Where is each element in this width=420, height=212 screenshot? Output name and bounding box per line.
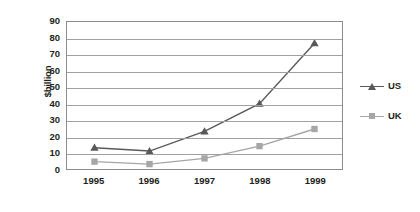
chart-legend: USUK: [360, 76, 418, 136]
legend-item-us[interactable]: US: [360, 76, 418, 96]
data-point-marker: [91, 158, 97, 164]
y-axis-tick-labels: 9080706050403020100: [30, 21, 60, 170]
data-point-marker: [310, 39, 318, 46]
y-axis-tick-label: 20: [30, 132, 60, 142]
line-chart: $billion 9080706050403020100 19951996199…: [0, 0, 420, 212]
series-line: [95, 43, 315, 151]
series-svg: [67, 22, 342, 169]
data-point-marker: [201, 155, 207, 161]
square-marker-icon: [360, 110, 384, 122]
gridline: [67, 72, 342, 73]
y-axis-tick-label: 40: [30, 99, 60, 109]
series-us: [90, 39, 318, 154]
x-axis-tick-label: 1999: [288, 176, 342, 186]
plot-area: [66, 21, 343, 170]
data-point-marker: [256, 143, 262, 149]
x-axis-tick-label: 1995: [67, 176, 121, 186]
gridline: [67, 138, 342, 139]
y-axis-tick-label: 70: [30, 49, 60, 59]
legend-label: UK: [388, 111, 402, 121]
y-axis-tick-label: 90: [30, 16, 60, 26]
x-axis-tick-label: 1998: [233, 176, 287, 186]
legend-label: US: [388, 81, 401, 91]
data-point-marker: [146, 161, 152, 167]
x-axis-tick-label: 1996: [122, 176, 176, 186]
gridline: [67, 39, 342, 40]
gridline: [67, 105, 342, 106]
gridline: [67, 55, 342, 56]
x-axis-tick-labels: 19951996199719981999: [66, 176, 343, 192]
data-point-marker: [311, 126, 317, 132]
y-axis-tick-label: 80: [30, 33, 60, 43]
gridline: [67, 88, 342, 89]
y-axis-tick-label: 60: [30, 66, 60, 76]
data-point-marker: [200, 127, 208, 134]
legend-square-icon: [369, 113, 375, 119]
triangle-marker-icon: [360, 80, 384, 92]
gridline: [67, 121, 342, 122]
y-axis-tick-label: 0: [30, 165, 60, 175]
legend-item-uk[interactable]: UK: [360, 106, 418, 126]
legend-triangle-icon: [368, 83, 376, 90]
y-axis-tick-label: 10: [30, 149, 60, 159]
y-axis-tick-label: 30: [30, 116, 60, 126]
gridline: [67, 154, 342, 155]
x-axis-tick-label: 1997: [178, 176, 232, 186]
y-axis-tick-label: 50: [30, 82, 60, 92]
